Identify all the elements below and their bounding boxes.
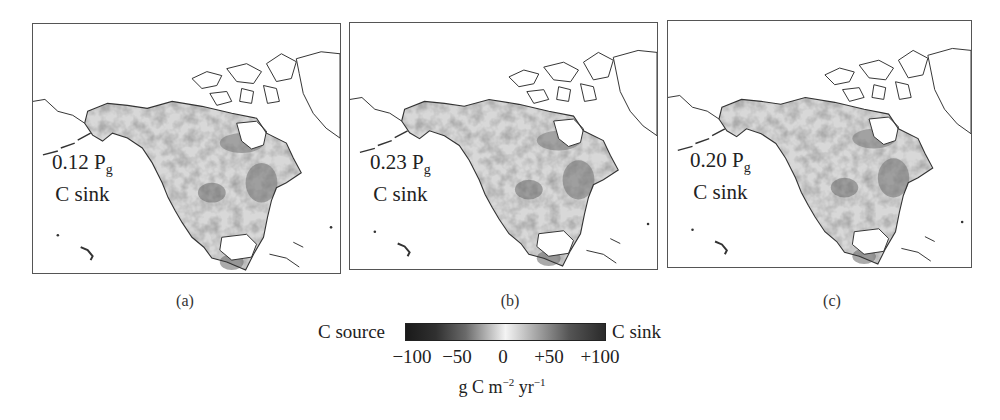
colorbar-unit: g C m−2 yr−1 [459,376,546,398]
panel-c-label: (c) [812,292,852,310]
unit-mid: yr [514,377,534,397]
panel-b-annotation: 0.23 Pg C sink [370,150,431,207]
colorbar-tick: +50 [534,346,564,368]
unit-exp2: −1 [534,376,546,388]
panel-c-value-sub: g [744,160,751,175]
panel-a-value-sub: g [106,162,113,177]
panel-b-value: 0.23 P [370,150,424,174]
panel-a-text: C sink [52,182,113,207]
north-america-map-b [350,23,657,269]
panel-a-annotation: 0.12 Pg C sink [52,150,113,207]
colorbar-tick: 0 [498,346,508,368]
panel-a-label: (a) [165,292,205,310]
colorbar-tick: +100 [580,346,619,368]
map-panel-c [667,20,972,268]
map-panel-a [32,23,341,274]
unit-exp1: −2 [503,376,515,388]
panel-c-text: C sink [690,180,751,205]
panel-c-value: 0.20 P [690,148,744,172]
panel-b-text: C sink [370,182,431,207]
north-america-map-c [668,21,971,267]
panel-a-value: 0.12 P [52,150,106,174]
panel-b-label: (b) [490,292,530,310]
colorbar-tick: −100 [392,346,431,368]
north-america-map-a [33,24,340,273]
colorbar [405,323,606,341]
colorbar-tick: −50 [442,346,472,368]
map-panel-b [349,22,658,270]
panel-c-annotation: 0.20 Pg C sink [690,148,751,205]
colorbar-right-label: C sink [612,321,661,343]
colorbar-left-label: C source [318,321,385,343]
panel-b-value-sub: g [424,162,431,177]
unit-base: g C m [459,377,503,397]
